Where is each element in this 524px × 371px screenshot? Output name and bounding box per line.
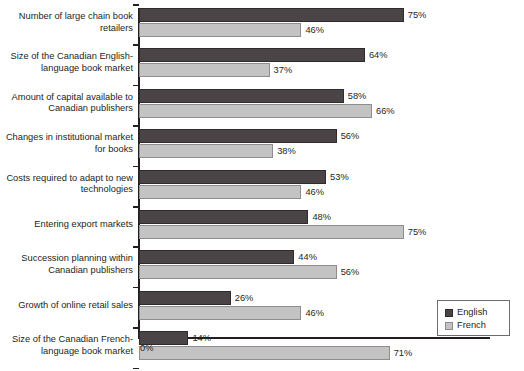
bar-value-label: 48% [308, 211, 331, 223]
bar-rect-french [139, 104, 372, 118]
category-label: Size of the Canadian French-language boo… [0, 334, 133, 357]
x-axis-zero-label: 0% [140, 343, 153, 353]
bar-value-label: 38% [273, 145, 296, 157]
bar-rect-english [139, 89, 344, 103]
legend-item-english: English [445, 307, 488, 318]
bar-value-label: 64% [365, 49, 388, 61]
category-label: Costs required to adapt to new technolog… [0, 173, 133, 196]
bar-value-label: 56% [337, 130, 360, 142]
bar-value-label: 46% [301, 307, 324, 319]
legend-swatch-french-icon [445, 322, 453, 330]
bar-row: Changes in institutional market for book… [0, 129, 524, 169]
bar-row: Costs required to adapt to new technolog… [0, 170, 524, 210]
bar-rect-french [139, 306, 301, 320]
bar-row: Entering export markets48%75% [0, 210, 524, 250]
axis-tick [133, 4, 139, 6]
legend-item-french: French [445, 320, 486, 331]
bar-value-label: 56% [337, 266, 360, 278]
bar-rect-french [139, 225, 404, 239]
bar-rect-english [139, 8, 404, 22]
bar-rect-french [139, 265, 337, 279]
bar-rect-english [139, 291, 231, 305]
bar-rect-french [139, 144, 273, 158]
bar-rect-french [139, 346, 390, 360]
bar-rect-english [139, 210, 308, 224]
category-label: Number of large chain book retailers [0, 11, 133, 34]
category-label: Size of the Canadian English-language bo… [0, 51, 133, 74]
bar-value-label: 53% [326, 171, 349, 183]
bar-row: Size of the Canadian French-language boo… [0, 331, 524, 371]
bar-value-label: 71% [390, 347, 413, 359]
legend-label-english: English [457, 307, 488, 318]
bar-value-label: 44% [294, 251, 317, 263]
legend-label-french: French [457, 320, 486, 331]
category-label: Entering export markets [0, 219, 133, 231]
bar-value-label: 66% [372, 105, 395, 117]
bar-value-label: 75% [404, 9, 427, 21]
category-label: Growth of online retail sales [0, 300, 133, 312]
bar-value-label: 46% [301, 186, 324, 198]
legend: English French [437, 300, 510, 336]
category-label: Amount of capital available to Canadian … [0, 92, 133, 115]
category-label: Succession planning within Canadian publ… [0, 253, 133, 276]
bar-row: Number of large chain book retailers75%4… [0, 8, 524, 48]
bar-rect-english [139, 250, 294, 264]
bar-row: Succession planning within Canadian publ… [0, 250, 524, 290]
bar-value-label: 14% [188, 332, 211, 344]
bar-rect-french [139, 63, 270, 77]
bar-rect-english [139, 48, 365, 62]
bar-rect-english [139, 170, 326, 184]
legend-swatch-english-icon [445, 309, 453, 317]
bar-value-label: 26% [231, 292, 254, 304]
bar-row: Amount of capital available to Canadian … [0, 89, 524, 129]
bar-rect-french [139, 23, 301, 37]
bar-rect-english [139, 129, 337, 143]
bar-rect-french [139, 185, 301, 199]
category-label: Changes in institutional market for book… [0, 132, 133, 155]
bar-value-label: 46% [301, 24, 324, 36]
bar-value-label: 75% [404, 226, 427, 238]
bar-value-label: 37% [270, 64, 293, 76]
bar-value-label: 58% [344, 90, 367, 102]
bar-row: Size of the Canadian English-language bo… [0, 48, 524, 88]
